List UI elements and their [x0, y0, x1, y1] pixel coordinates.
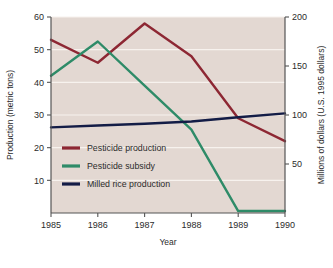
legend-label: Milled rice production [87, 179, 170, 189]
x-tick-label: 1988 [181, 220, 201, 230]
y2-tick-label: 100 [292, 110, 307, 120]
x-tick-label: 1990 [275, 220, 295, 230]
x-tick-label: 1986 [88, 220, 108, 230]
left-axis-ticks: 102030405060 [34, 12, 51, 185]
legend-label: Pesticide production [87, 143, 166, 153]
x-axis-title: Year [159, 237, 176, 247]
x-tick-label: 1985 [41, 220, 61, 230]
y-tick-label: 30 [34, 110, 44, 120]
line-chart: 102030405060 50100150200 198519861987198… [0, 0, 333, 268]
x-tick-label: 1989 [228, 220, 248, 230]
y2-tick-label: 50 [292, 159, 302, 169]
y2-tick-label: 200 [292, 12, 307, 22]
y-axis-title: Production (metric tons) [5, 70, 15, 160]
legend-label: Pesticide subsidy [87, 161, 156, 171]
chart-container: 102030405060 50100150200 198519861987198… [0, 0, 333, 268]
x-tick-label: 1987 [135, 220, 155, 230]
y2-tick-label: 150 [292, 61, 307, 71]
bottom-axis-ticks: 198519861987198819891990 [41, 213, 295, 230]
y-tick-label: 60 [34, 12, 44, 22]
y-tick-label: 40 [34, 78, 44, 88]
y2-axis-title: Millions of dollars (U.S. 1995 dollars) [316, 46, 326, 185]
y-tick-label: 20 [34, 143, 44, 153]
right-axis-ticks: 50100150200 [285, 12, 307, 169]
y-tick-label: 10 [34, 176, 44, 186]
y-tick-label: 50 [34, 45, 44, 55]
